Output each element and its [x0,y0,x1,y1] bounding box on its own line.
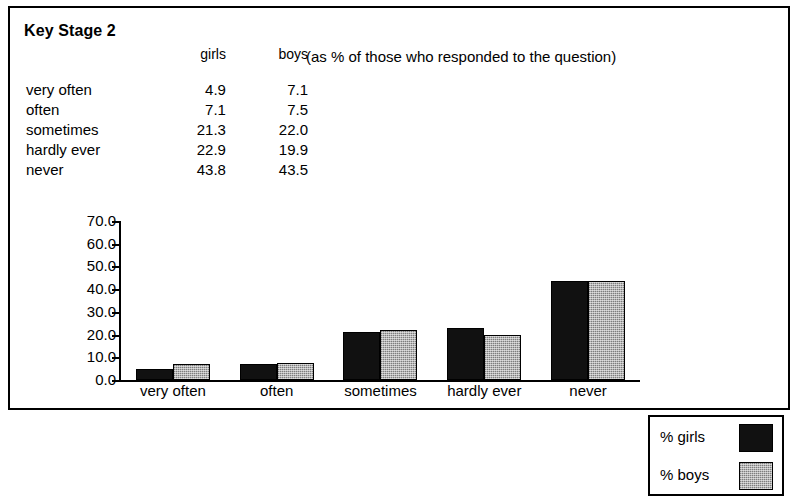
row-label: sometimes [22,120,158,140]
row-value-boys: 22.0 [240,120,322,140]
y-tick-mark [112,221,119,223]
y-axis-tick-labels: 0.010.020.030.040.050.060.070.0 [44,200,116,386]
data-table: girls boys very often4.97.1often7.17.5so… [22,44,322,180]
y-tick-mark [112,244,119,246]
legend-item-boys: % boys [650,458,782,494]
row-value-girls: 21.3 [158,120,240,140]
bar-boys [588,281,625,380]
x-tick-label: often [225,382,329,399]
legend-swatch-boys-icon [739,462,773,490]
bar-group [536,221,640,380]
bar-group [329,221,433,380]
row-label: very often [22,80,158,100]
row-value-girls: 43.8 [158,160,240,180]
table-row: never43.843.5 [22,160,322,180]
bar-group [225,221,329,380]
x-axis-tick-labels: very oftenoftensometimeshardly evernever [119,382,642,406]
y-tick-mark [112,357,119,359]
bar-boys [277,363,314,380]
x-tick-label: very often [121,382,225,399]
legend-item-girls: % girls [650,420,782,456]
bar-boys [380,330,417,380]
row-label: often [22,100,158,120]
bar-girls [136,369,173,380]
table-row: hardly ever22.919.9 [22,140,322,160]
plot-area [119,221,640,380]
row-value-boys: 7.5 [240,100,322,120]
row-value-girls: 4.9 [158,80,240,100]
bar-series-area [121,221,640,380]
y-tick-mark [112,335,119,337]
row-value-boys: 43.5 [240,160,322,180]
table-row: sometimes21.322.0 [22,120,322,140]
figure-panel: Key Stage 2 girls boys very often4.97.1o… [8,6,790,410]
y-tick-mark [112,380,119,382]
bar-girls [343,332,380,380]
bar-girls [240,364,277,380]
row-value-girls: 22.9 [158,140,240,160]
y-tick-mark [112,289,119,291]
row-label: never [22,160,158,180]
legend-swatch-girls-icon [739,424,773,452]
bar-group [121,221,225,380]
table-header-row: girls boys [22,44,322,80]
row-value-boys: 19.9 [240,140,322,160]
bar-girls [551,281,588,380]
legend-label-girls: % girls [660,428,705,445]
column-header-girls: girls [158,44,240,80]
x-tick-label: never [536,382,640,399]
bar-boys [484,335,521,380]
legend-label-boys: % boys [660,466,709,483]
y-tick-mark [112,312,119,314]
row-label: hardly ever [22,140,158,160]
y-tick-mark [112,266,119,268]
column-header-category [22,44,158,80]
bar-girls [447,328,484,380]
page-title: Key Stage 2 [24,22,116,40]
bar-chart: 0.010.020.030.040.050.060.070.0 very oft… [10,200,788,408]
bar-boys [173,364,210,380]
note-text: (as % of those who responded to the ques… [306,48,616,65]
table-row: very often4.97.1 [22,80,322,100]
row-value-boys: 7.1 [240,80,322,100]
bar-group [432,221,536,380]
table-row: often7.17.5 [22,100,322,120]
x-tick-label: hardly ever [432,382,536,399]
table-body: very often4.97.1often7.17.5sometimes21.3… [22,80,322,180]
chart-legend: % girls % boys [648,415,784,496]
x-tick-label: sometimes [329,382,433,399]
row-value-girls: 7.1 [158,100,240,120]
